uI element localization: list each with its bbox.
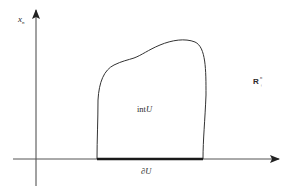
region-outline: [97, 40, 206, 159]
vertical-axis-label: xn: [17, 14, 25, 25]
space-label-superscript: n: [260, 75, 263, 80]
half-space-diagram: xn R n + intU ∂U: [0, 0, 288, 192]
boundary-label: ∂U: [141, 166, 152, 176]
interior-label: intU: [137, 104, 153, 114]
space-label-subscript: +: [260, 83, 263, 88]
space-label: R: [253, 77, 259, 86]
